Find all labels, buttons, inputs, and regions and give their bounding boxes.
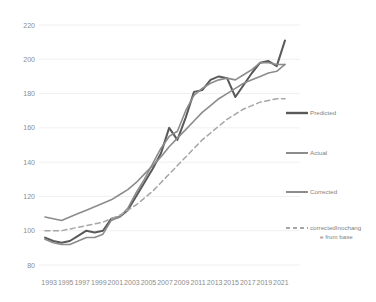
- x-tick-label: 2001: [108, 279, 124, 286]
- y-tick-label: 120: [23, 193, 35, 200]
- legend-label-1: Predicted: [310, 109, 337, 116]
- y-axis-tick-labels: 80100120140160180200220: [23, 22, 35, 269]
- series-lines: [45, 40, 285, 244]
- series-line-actual: [45, 63, 285, 245]
- y-tick-label: 180: [23, 90, 35, 97]
- x-tick-label: 1993: [41, 279, 57, 286]
- x-tick-label: 2015: [223, 279, 239, 286]
- x-tick-label: 2005: [141, 279, 157, 286]
- x-tick-label: 1999: [91, 279, 107, 286]
- x-tick-label: 2017: [240, 279, 256, 286]
- legend-label-3: Corrected: [310, 188, 338, 195]
- chart-container: 80100120140160180200220 1993199519971999…: [0, 0, 376, 302]
- y-tick-label: 200: [23, 56, 35, 63]
- x-tick-label: 2007: [157, 279, 173, 286]
- x-tick-label: 2011: [191, 279, 206, 286]
- x-tick-label: 2019: [257, 279, 273, 286]
- gridlines: [39, 25, 300, 265]
- x-tick-label: 1997: [74, 279, 90, 286]
- x-tick-label: 1995: [58, 279, 74, 286]
- legend-label-4-line1: correctedInochang: [310, 224, 362, 231]
- y-tick-label: 140: [23, 159, 35, 166]
- legend-label-4-line2: e from base: [320, 233, 353, 240]
- series-line-correctedinochange-from-base: [45, 99, 285, 231]
- y-tick-label: 100: [23, 227, 35, 234]
- y-tick-label: 220: [23, 22, 35, 29]
- legend-label-2: Actual: [310, 149, 327, 156]
- chart-legend: PredictedActualCorrectedcorrectedInochan…: [286, 109, 362, 239]
- y-tick-label: 80: [27, 262, 35, 269]
- x-axis-tick-labels: 1993199519971999200120032005200720092011…: [41, 279, 288, 286]
- y-tick-label: 160: [23, 124, 35, 131]
- x-tick-label: 2009: [174, 279, 190, 286]
- x-tick-label: 2013: [207, 279, 223, 286]
- x-tick-label: 2021: [273, 279, 289, 286]
- line-chart: 80100120140160180200220 1993199519971999…: [0, 0, 376, 302]
- x-tick-label: 2003: [124, 279, 140, 286]
